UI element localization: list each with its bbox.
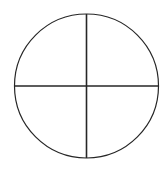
line-drawing-figure: Circle divided into four quadrants by ve… xyxy=(0,0,168,170)
figure-canvas: Circle divided into four quadrants by ve… xyxy=(0,0,168,170)
